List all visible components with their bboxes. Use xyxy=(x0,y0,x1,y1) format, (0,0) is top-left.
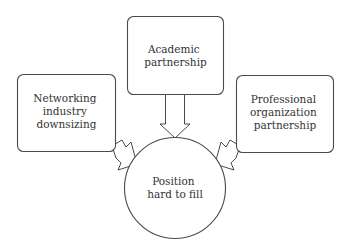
svg-text:Academic partnership: Academic partnership xyxy=(144,43,207,68)
academic-line-1: Academic xyxy=(147,43,200,55)
academic-line-2: partnership xyxy=(144,56,207,68)
node-position-hard-to-fill: Position hard to fill xyxy=(125,138,226,239)
node-professional-organization-partnership: Professional organization partnership xyxy=(237,76,334,153)
diagram-canvas: Academic partnership Networking industry… xyxy=(0,0,346,250)
position-line-1: Position xyxy=(152,175,195,187)
professional-line-1: Professional xyxy=(251,93,317,105)
node-academic-partnership: Academic partnership xyxy=(128,17,224,95)
professional-line-3: partnership xyxy=(254,119,317,131)
arrow-academic-to-position xyxy=(160,95,190,139)
svg-text:Position hard to fill: Position hard to fill xyxy=(147,175,203,200)
professional-line-2: organization xyxy=(250,106,317,118)
networking-line-2: industry xyxy=(43,105,87,117)
svg-text:Networking industry: Networking industry downsizing xyxy=(33,92,100,130)
svg-text:Professional organizatio: Professional organization partnership xyxy=(250,93,320,131)
node-networking-industry-downsizing: Networking industry downsizing xyxy=(18,75,116,152)
networking-line-1: Networking xyxy=(33,92,96,104)
position-line-2: hard to fill xyxy=(147,188,203,200)
networking-line-3: downsizing xyxy=(37,118,97,130)
